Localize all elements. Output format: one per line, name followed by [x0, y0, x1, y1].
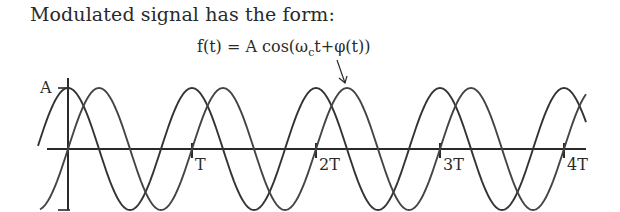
signal-plot: A T2T3T4T [0, 0, 620, 212]
x-tick-label: 2T [319, 155, 340, 174]
x-ticks: T2T3T4T [192, 143, 588, 174]
x-tick-label: T [195, 155, 206, 174]
amplitude-label: A [39, 78, 52, 97]
x-tick-label: 3T [443, 155, 464, 174]
annotation-arrow [337, 60, 347, 83]
x-tick-label: 4T [567, 155, 588, 174]
